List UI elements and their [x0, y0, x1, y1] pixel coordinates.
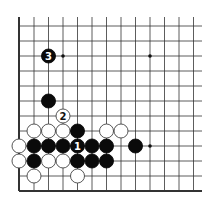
hoshi-point — [148, 144, 152, 148]
white-stone — [71, 169, 85, 183]
white-stone — [114, 124, 128, 138]
black-stone — [85, 154, 99, 168]
white-stone — [56, 124, 70, 138]
white-stone — [56, 154, 70, 168]
white-stone — [12, 139, 26, 153]
white-stone — [100, 124, 114, 138]
black-stone: 3 — [42, 49, 56, 63]
hoshi-point — [148, 54, 152, 58]
black-stone — [100, 154, 114, 168]
black-stone — [42, 94, 56, 108]
black-stone — [71, 154, 85, 168]
black-stone — [71, 124, 85, 138]
black-stone — [100, 139, 114, 153]
move-number-label: 3 — [45, 51, 52, 62]
white-stone — [12, 154, 26, 168]
black-stone — [85, 139, 99, 153]
hoshi-point — [61, 54, 65, 58]
white-stone — [27, 169, 41, 183]
black-stone — [129, 139, 143, 153]
black-stone — [27, 154, 41, 168]
move-number-label: 2 — [60, 111, 67, 122]
black-stone — [27, 139, 41, 153]
black-stone — [42, 139, 56, 153]
black-stone — [56, 139, 70, 153]
black-stone: 1 — [71, 139, 85, 153]
go-board: 321 — [0, 0, 212, 208]
white-stone: 2 — [56, 109, 70, 123]
move-number-label: 1 — [74, 141, 81, 152]
white-stone — [42, 154, 56, 168]
white-stone — [42, 124, 56, 138]
white-stone — [27, 124, 41, 138]
